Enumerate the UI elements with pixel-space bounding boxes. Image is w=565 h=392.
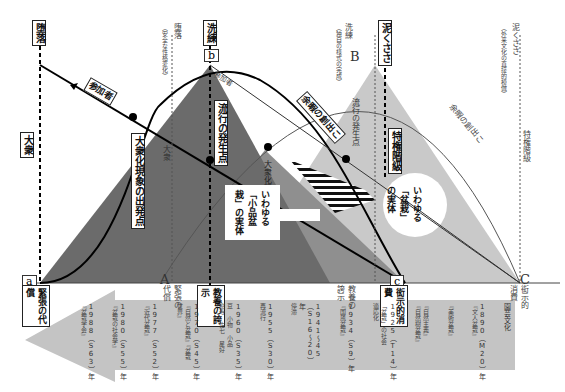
point-B: B <box>350 50 360 63</box>
timeline-list: 1988（S63）年『盆栽学会』 1980（S55）年『盆栽の社会学』 1977… <box>80 303 510 367</box>
label-ryuko-start-gray: 流行の発生点 <box>350 98 358 146</box>
timeline-item: 1925（T14）年「盆栽」の社会適応化 <box>372 303 396 367</box>
label-taishu: 大衆 <box>20 132 34 158</box>
point-b: b <box>204 49 219 62</box>
label-ryuko-start: 流行の発生点 <box>214 100 228 166</box>
label-tokken: 特権階級 <box>388 128 402 174</box>
timeline-item: 1955（S30）年再流行 <box>259 303 273 367</box>
timeline-item: 1977（S52）年『近代盆栽』 <box>144 303 158 367</box>
label-senren-gray: 洗練 <box>343 23 351 39</box>
timeline-item: 1988（S63）年『盆栽学会』 <box>80 303 94 367</box>
label-taishuka-start: 大衆化現象の出発点 <box>131 133 145 229</box>
label-daraku: 堕落 <box>32 20 46 46</box>
timeline-item: 1941〜45（S16〜20）年停滞 <box>291 303 322 367</box>
timeline-item: 1980（S55）年『盆栽の社会学』 <box>112 303 126 367</box>
timeline-item: 『美術盆栽』 <box>447 303 453 367</box>
timeline-item: 園芸文化 <box>503 303 510 367</box>
timeline-item: 『自然主義』『自然樹盆栽』 <box>413 303 429 367</box>
label-dorokusasa: 泥くささ <box>378 20 392 66</box>
label-senren: 洗練 <box>203 20 217 46</box>
label-kincho-daisho: 緊張の代償 <box>22 285 50 327</box>
label-bonsai-jittai: いわゆる「盆栽」の実体 <box>384 186 423 226</box>
label-taishu-gray: 大衆 <box>161 145 169 161</box>
timeline-item: 1970（S45）年『自然と盆栽』『盆栽世界』 <box>175 303 199 367</box>
label-daraku-gray-sub: （安全な性格変化） <box>161 25 167 79</box>
timeline-item: 1960（S35）年豆 小物 小品 樹寿 佐七 星好 <box>217 303 241 367</box>
label-shohin-bonsai: いわゆる「小品盆栽」の実体 <box>232 190 271 238</box>
label-tokken-gray: 特権階級 <box>521 130 529 162</box>
label-daraku-gray: 堕落 <box>172 23 180 39</box>
label-dorokusasa-gray: 泥くささ <box>510 23 518 55</box>
timeline-item: 1934（S9）年『国風盆栽』 <box>340 303 354 367</box>
label-senren-gray-sub: （独自の様式の完成） <box>335 25 341 85</box>
label-dorokusasa-gray-sub: （外来文化の直接的模倣） <box>500 25 506 97</box>
timeline-item: 1890（M20）年『文人盆栽』 <box>471 303 485 367</box>
